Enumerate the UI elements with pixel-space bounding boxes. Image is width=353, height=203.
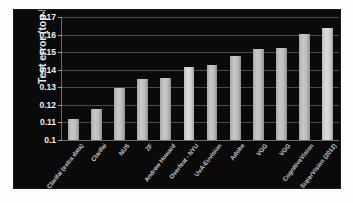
chart-figure-panel: Test error (top-5) 0.10.110.120.130.140.…: [14, 10, 340, 188]
y-tick-label: 0.14: [39, 65, 56, 75]
y-tick-label: 0.17: [39, 12, 56, 22]
bar: [91, 109, 102, 140]
bar: [137, 79, 148, 141]
plot-area: 0.10.110.120.130.140.150.160.17: [61, 17, 339, 141]
y-tick-mark: [58, 140, 62, 141]
bar: [207, 65, 218, 140]
bar-series: [62, 17, 339, 140]
y-tick-label: 0.11: [40, 117, 56, 127]
screenshot-page: Test error (top-5) 0.10.110.120.130.140.…: [0, 0, 353, 203]
x-tick-label: VGG: [255, 142, 269, 157]
bar: [276, 48, 287, 140]
bar: [253, 49, 264, 140]
x-tick-label: Clarifai (extra data): [45, 142, 84, 188]
x-tick-label: NUS: [117, 142, 130, 156]
x-tick-label: Adobe: [228, 142, 245, 161]
y-tick-label: 0.12: [39, 100, 56, 110]
x-tick-label: Clarifai: [89, 142, 107, 163]
y-tick-label: 0.15: [39, 47, 56, 57]
bar: [160, 78, 171, 140]
x-tick-label: ZF: [143, 142, 153, 152]
bar: [184, 67, 195, 140]
y-tick-label: 0.16: [39, 30, 56, 40]
bar: [114, 88, 125, 140]
x-axis-labels: Clarifai (extra data)ClarifaiNUSZFAndrew…: [61, 142, 338, 188]
x-tick-label: VGG: [278, 142, 292, 157]
bar: [68, 119, 79, 140]
bar: [322, 28, 333, 140]
y-tick-label: 0.1: [44, 135, 56, 145]
y-tick-label: 0.13: [39, 82, 56, 92]
bar: [299, 34, 310, 140]
bar: [230, 56, 241, 140]
